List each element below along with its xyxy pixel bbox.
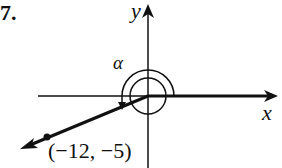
coordinate-diagram: [0, 0, 282, 168]
point-marker: [44, 134, 51, 141]
